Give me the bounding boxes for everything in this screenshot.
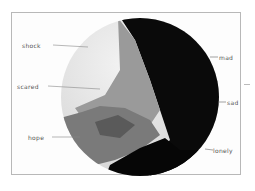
label-lonely: lonely [213, 147, 233, 154]
label-hope: hope [28, 134, 44, 141]
label-mad: mad [219, 54, 233, 61]
label-shock: shock [22, 42, 41, 49]
emotion-circle-drawing [0, 0, 255, 191]
label-sad: sad [227, 99, 239, 106]
label-scared: scared [17, 83, 39, 90]
